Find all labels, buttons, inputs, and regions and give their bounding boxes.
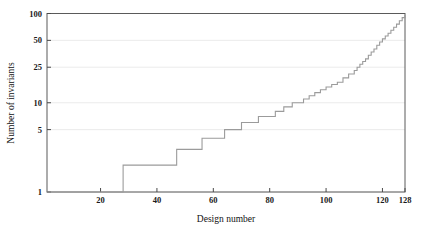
x-axis-tick-labels: 20406080100120128 [96,195,411,205]
invariants-curve [47,15,405,192]
x-tick-label: 128 [399,195,412,205]
plot-gridlines [47,14,405,193]
x-axis-ticks [101,188,405,192]
x-tick-label: 20 [96,195,105,205]
y-tick-label: 100 [29,9,42,19]
invariants-step-chart: 15102550100 20406080100120128 Design num… [0,0,432,232]
y-axis-ticks [47,14,51,193]
y-axis-title: Number of invariants [6,62,16,144]
y-axis-tick-labels: 15102550100 [29,9,42,198]
y-tick-label: 1 [38,187,42,197]
y-tick-label: 25 [34,62,43,72]
x-axis-title: Design number [197,214,256,224]
chart-page: 15102550100 20406080100120128 Design num… [0,0,432,232]
x-tick-label: 40 [153,195,162,205]
y-tick-label: 5 [38,125,42,135]
x-tick-label: 80 [265,195,274,205]
x-tick-label: 60 [209,195,218,205]
x-tick-label: 120 [376,195,389,205]
x-tick-label: 100 [320,195,333,205]
y-tick-label: 10 [34,98,43,108]
y-tick-label: 50 [34,35,43,45]
